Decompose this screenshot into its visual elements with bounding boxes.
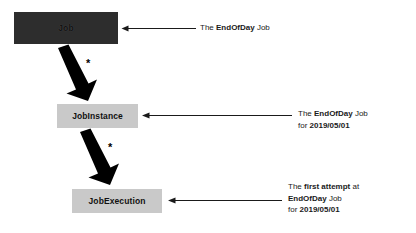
multiplicity-job-to-jobinstance: * [86,58,90,69]
relation-arrow-jobinstance-to-jobexecution [80,129,119,186]
node-job-instance[interactable]: JobInstance [57,104,138,128]
annotation-job-instance: The EndOfDay Jobfor 2019/05/01 [298,108,368,131]
annotation-job-execution: The first attempt atEndOfDay Jobfor 2019… [288,181,359,216]
multiplicity-jobinstance-to-jobexecution: * [108,142,112,153]
node-job-instance-label: JobInstance [72,111,123,121]
annotation-arrow-job-execution [168,197,282,203]
node-job[interactable]: Job [14,12,118,44]
diagram-canvas: * * Job JobInstance JobExecution The End… [0,0,416,233]
node-job-label: Job [58,23,73,33]
annotation-arrow-job-instance [142,112,292,118]
node-job-execution[interactable]: JobExecution [72,189,162,213]
relation-arrow-job-to-jobinstance [58,45,97,102]
annotation-job: The EndOfDay Job [200,22,270,34]
annotation-arrow-job [122,26,197,32]
node-job-execution-label: JobExecution [89,196,146,206]
